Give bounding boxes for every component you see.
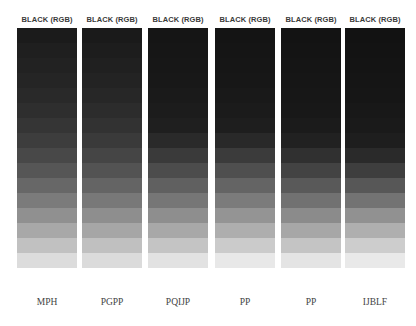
- gray-band-1: [17, 28, 77, 43]
- gray-band-4: [215, 73, 275, 88]
- gray-step-bar: [281, 28, 341, 268]
- gray-step-bar: [215, 28, 275, 268]
- gray-band-4: [82, 73, 142, 88]
- gray-band-9: [281, 148, 341, 163]
- gray-band-13: [148, 208, 208, 223]
- gray-band-14: [281, 223, 341, 238]
- gray-band-16: [215, 253, 275, 268]
- gray-band-11: [215, 178, 275, 193]
- gray-band-1: [345, 28, 405, 43]
- gray-band-10: [17, 163, 77, 178]
- gray-band-6: [148, 103, 208, 118]
- gray-band-11: [148, 178, 208, 193]
- gray-band-7: [148, 118, 208, 133]
- gray-band-15: [345, 238, 405, 253]
- gray-band-2: [281, 43, 341, 58]
- gray-band-13: [345, 208, 405, 223]
- column-header: BLACK (RGB): [209, 15, 281, 24]
- gray-band-7: [345, 118, 405, 133]
- gray-band-10: [281, 163, 341, 178]
- column-header: BLACK (RGB): [11, 15, 83, 24]
- gray-band-8: [345, 133, 405, 148]
- gray-band-12: [17, 193, 77, 208]
- gray-band-2: [148, 43, 208, 58]
- gray-band-12: [82, 193, 142, 208]
- gray-band-4: [17, 73, 77, 88]
- gray-band-8: [17, 133, 77, 148]
- gray-band-13: [82, 208, 142, 223]
- gray-band-15: [281, 238, 341, 253]
- gray-step-bar: [17, 28, 77, 268]
- gray-band-1: [215, 28, 275, 43]
- gray-band-10: [82, 163, 142, 178]
- gray-band-8: [82, 133, 142, 148]
- gray-band-9: [17, 148, 77, 163]
- gray-band-14: [148, 223, 208, 238]
- gray-band-11: [345, 178, 405, 193]
- gray-band-9: [215, 148, 275, 163]
- column-header: BLACK (RGB): [142, 15, 214, 24]
- column-label: IJBLF: [335, 297, 415, 307]
- column-header: BLACK (RGB): [76, 15, 148, 24]
- gray-band-16: [82, 253, 142, 268]
- gray-band-16: [281, 253, 341, 268]
- gray-band-1: [281, 28, 341, 43]
- gray-band-14: [215, 223, 275, 238]
- gray-band-15: [215, 238, 275, 253]
- gray-band-11: [17, 178, 77, 193]
- gray-band-12: [281, 193, 341, 208]
- gray-band-11: [82, 178, 142, 193]
- gray-band-8: [148, 133, 208, 148]
- gray-band-3: [345, 58, 405, 73]
- gray-band-4: [148, 73, 208, 88]
- gray-band-5: [82, 88, 142, 103]
- gray-band-7: [215, 118, 275, 133]
- gray-band-16: [17, 253, 77, 268]
- gray-step-bar: [345, 28, 405, 268]
- gray-band-6: [215, 103, 275, 118]
- gray-band-11: [281, 178, 341, 193]
- gray-band-4: [345, 73, 405, 88]
- column-header: BLACK (RGB): [275, 15, 347, 24]
- gray-band-8: [281, 133, 341, 148]
- gray-band-1: [82, 28, 142, 43]
- gray-band-5: [17, 88, 77, 103]
- gray-band-6: [17, 103, 77, 118]
- gray-band-8: [215, 133, 275, 148]
- gray-band-5: [345, 88, 405, 103]
- gray-band-5: [215, 88, 275, 103]
- gray-band-2: [82, 43, 142, 58]
- gray-band-7: [82, 118, 142, 133]
- gray-band-7: [281, 118, 341, 133]
- gray-step-bar: [148, 28, 208, 268]
- gray-band-3: [82, 58, 142, 73]
- gray-band-1: [148, 28, 208, 43]
- gray-band-5: [281, 88, 341, 103]
- gray-band-9: [148, 148, 208, 163]
- gray-band-6: [82, 103, 142, 118]
- gray-band-14: [17, 223, 77, 238]
- gray-band-12: [148, 193, 208, 208]
- gray-band-15: [148, 238, 208, 253]
- gray-band-12: [215, 193, 275, 208]
- gray-band-10: [148, 163, 208, 178]
- gray-band-14: [345, 223, 405, 238]
- gray-band-15: [17, 238, 77, 253]
- gray-band-3: [281, 58, 341, 73]
- gray-band-13: [215, 208, 275, 223]
- gray-band-14: [82, 223, 142, 238]
- gray-band-16: [148, 253, 208, 268]
- gray-band-3: [17, 58, 77, 73]
- gray-band-4: [281, 73, 341, 88]
- gray-band-9: [345, 148, 405, 163]
- gray-band-12: [345, 193, 405, 208]
- gray-band-2: [345, 43, 405, 58]
- gray-band-10: [215, 163, 275, 178]
- gray-band-7: [17, 118, 77, 133]
- gray-band-5: [148, 88, 208, 103]
- gray-band-13: [281, 208, 341, 223]
- gray-band-6: [345, 103, 405, 118]
- gray-band-3: [215, 58, 275, 73]
- column-header: BLACK (RGB): [339, 15, 411, 24]
- gray-band-6: [281, 103, 341, 118]
